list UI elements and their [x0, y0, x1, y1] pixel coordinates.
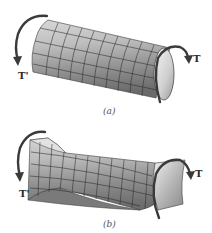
figure-caption-a: (a) [103, 106, 116, 116]
twisted-shaft-body [28, 138, 158, 210]
shaft-diagram-a: T' T (a) [0, 0, 212, 118]
figure-a-undeformed-shaft: T' T (a) [0, 0, 212, 118]
torque-label-right: T [193, 53, 201, 64]
figure-caption-b: (b) [103, 219, 116, 229]
shaft-body [32, 20, 170, 98]
shaft-end-segment [153, 160, 185, 210]
shaft-diagram-b: T' T (b) [0, 118, 212, 233]
torque-label-left: T' [19, 188, 30, 199]
torque-label-right: T [195, 168, 203, 179]
torque-label-left: T' [18, 70, 29, 81]
figure-b-twisted-shaft: T' T (b) [0, 118, 212, 233]
